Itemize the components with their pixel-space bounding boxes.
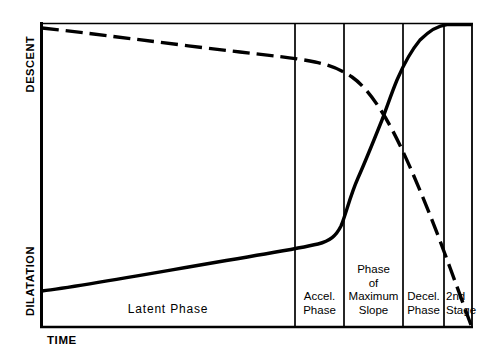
phase-label-max-slope: PhaseofMaximumSlope [345,263,402,317]
y-axis-label-descent: DESCENT [24,14,36,114]
phase-label-decel: Decel.Phase [404,290,443,317]
y-axis-label-dilatation: DILATATION [24,220,36,342]
x-axis-label-time: TIME [47,334,77,346]
phase-label-second-stage: 2ndStage [445,290,474,317]
labor-curve-figure: DESCENT DILATATION TIME Latent Phase Acc… [0,0,494,359]
phase-label-latent: Latent Phase [42,303,294,317]
phase-label-accel: Accel.Phase [296,290,343,317]
